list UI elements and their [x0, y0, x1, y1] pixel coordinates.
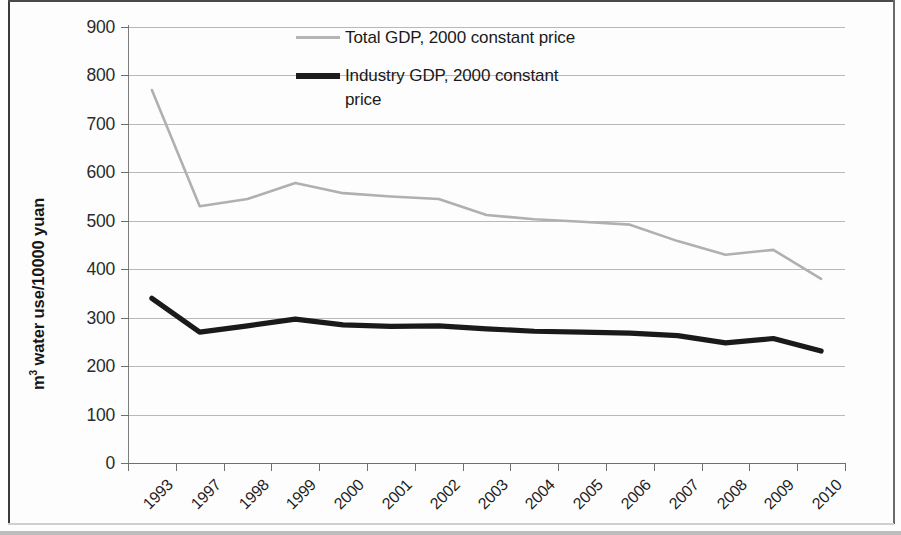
- x-axis-tick-label: 1999: [268, 476, 320, 528]
- figure-border-right: [893, 0, 895, 524]
- x-axis-tick-label: 2007: [650, 476, 702, 528]
- y-axis-tick-label: 600: [57, 162, 115, 183]
- x-axis-tick-label: 2008: [698, 476, 750, 528]
- x-axis-tick-label: 2010: [793, 476, 845, 528]
- y-axis-tick-label: 100: [57, 405, 115, 426]
- x-axis-tick: [702, 463, 703, 471]
- chart-legend: Total GDP, 2000 constant price Industry …: [296, 26, 596, 126]
- x-axis-tick-label: 2002: [411, 476, 463, 528]
- x-axis-tick-label: 2001: [363, 476, 415, 528]
- figure-border-top: [8, 0, 894, 2]
- x-axis-tick: [606, 463, 607, 471]
- series-line-industry-gdp: [152, 298, 821, 351]
- legend-swatch-total-gdp-icon: [296, 36, 340, 39]
- legend-swatch-industry-gdp-icon: [296, 73, 340, 79]
- x-axis-tick: [749, 463, 750, 471]
- x-axis-tick-label: 1998: [220, 476, 272, 528]
- x-axis-tick: [271, 463, 272, 471]
- x-axis-tick-label: 2006: [602, 476, 654, 528]
- y-axis-tick-label: 800: [57, 65, 115, 86]
- x-axis-tick: [510, 463, 511, 471]
- y-axis-tick-label: 0: [57, 453, 115, 474]
- x-axis-tick: [797, 463, 798, 471]
- x-axis-tick-label: 2005: [554, 476, 606, 528]
- x-axis-tick: [128, 463, 129, 471]
- y-axis-title-prefix: m: [29, 375, 47, 390]
- x-axis-tick: [654, 463, 655, 471]
- y-axis-tick-label: 200: [57, 356, 115, 377]
- y-axis-title-rest: water use/10000 yuan: [29, 198, 47, 370]
- legend-item-total-gdp: Total GDP, 2000 constant price: [296, 26, 596, 50]
- chart-figure: m3 water use/10000 yuan 0100200300400500…: [0, 0, 901, 535]
- x-axis-tick-label: 2004: [507, 476, 559, 528]
- x-axis-line: [128, 463, 846, 464]
- y-axis-tick-label: 500: [57, 211, 115, 232]
- legend-label-total-gdp: Total GDP, 2000 constant price: [345, 26, 575, 50]
- x-axis-tick: [845, 463, 846, 471]
- x-axis-tick: [558, 463, 559, 471]
- x-axis-tick: [463, 463, 464, 471]
- x-axis-tick-label: 2009: [746, 476, 798, 528]
- y-axis-tick-label: 900: [57, 17, 115, 38]
- y-axis-tick-label: 300: [57, 308, 115, 329]
- x-axis-tick: [319, 463, 320, 471]
- y-axis-tick-labels: 0100200300400500600700800900: [55, 0, 115, 535]
- y-axis-tick-label: 700: [57, 114, 115, 135]
- y-axis-title: m3 water use/10000 yuan: [28, 90, 52, 390]
- x-axis-tick-label: 2000: [315, 476, 367, 528]
- y-axis-tick-label: 400: [57, 259, 115, 280]
- x-axis-tick-label: 1997: [172, 476, 224, 528]
- x-axis-tick: [415, 463, 416, 471]
- x-axis-tick-label: 2003: [459, 476, 511, 528]
- figure-border-left: [8, 0, 10, 524]
- legend-label-industry-gdp: Industry GDP, 2000 constant price: [345, 64, 577, 112]
- x-axis-tick: [367, 463, 368, 471]
- figure-footer-band: [0, 531, 901, 535]
- x-axis-tick: [224, 463, 225, 471]
- y-axis-title-superscript: 3: [28, 370, 39, 375]
- x-axis-tick: [176, 463, 177, 471]
- legend-item-industry-gdp: Industry GDP, 2000 constant price: [296, 64, 596, 112]
- x-axis-tick-label: 1993: [124, 476, 176, 528]
